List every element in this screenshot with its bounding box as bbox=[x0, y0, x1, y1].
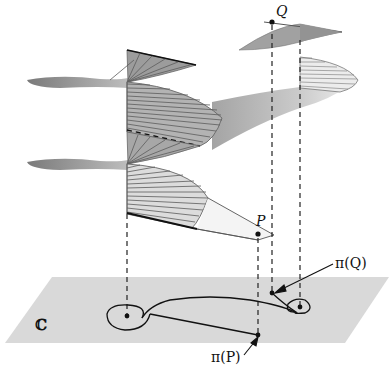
right-helicoid bbox=[239, 22, 358, 92]
label-complex-plane: ℂ bbox=[35, 318, 47, 333]
connecting-ribbon bbox=[212, 82, 355, 150]
label-q: Q bbox=[276, 4, 287, 18]
label-proj-q: π(Q) bbox=[335, 256, 367, 270]
branch-point-right bbox=[298, 305, 303, 310]
diagram-svg bbox=[0, 0, 389, 371]
branch-point-left bbox=[125, 314, 130, 319]
label-p: P bbox=[256, 214, 265, 228]
point-q bbox=[269, 19, 274, 24]
proj-q-point bbox=[270, 291, 275, 296]
diagram-canvas: Q P π(Q) π(P) ℂ bbox=[0, 0, 389, 371]
complex-plane bbox=[5, 277, 389, 343]
point-p bbox=[255, 231, 260, 236]
left-helicoid bbox=[27, 50, 222, 229]
label-proj-p: π(P) bbox=[211, 350, 241, 364]
